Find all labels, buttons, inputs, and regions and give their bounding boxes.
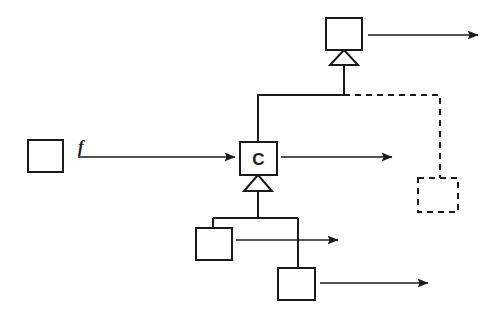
subclass-box-2[interactable] (278, 268, 315, 300)
source-class-box-rect (28, 140, 63, 172)
inheritance-triangle-superclass (330, 50, 358, 65)
source-class-box[interactable] (28, 140, 63, 172)
class-c-box[interactable]: C (240, 142, 277, 175)
generalization-line-c-to-superclass (258, 65, 344, 142)
function-f-label: f (78, 137, 86, 156)
dependent-class-box[interactable] (418, 178, 458, 212)
class-c-box-label: C (252, 150, 264, 169)
dependency-to-dependent-class[interactable] (344, 95, 440, 178)
subclass-box-1-rect (196, 228, 232, 260)
class-diagram: C f (0, 0, 497, 323)
superclass-box-rect (326, 18, 362, 50)
inheritance-triangle-class-c (244, 175, 272, 191)
diagram-canvas: C f (0, 0, 497, 323)
generalization-c-to-superclass[interactable] (258, 50, 358, 142)
dependency-line-dashed (344, 95, 440, 178)
superclass-box[interactable] (326, 18, 362, 50)
edge-labels-group: f (78, 137, 86, 156)
subclass-box-1[interactable] (196, 228, 232, 260)
subclass-box-2-rect (278, 268, 315, 300)
dependent-class-box-rect (418, 178, 458, 212)
class-boxes-group: C (28, 18, 458, 300)
